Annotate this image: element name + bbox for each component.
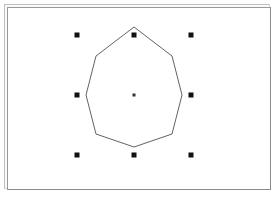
drawing-application-window <box>0 0 278 199</box>
handle-top-right[interactable] <box>189 33 194 38</box>
handle-bottom-center[interactable] <box>132 153 137 158</box>
handle-bottom-right[interactable] <box>189 153 194 158</box>
octagon-shape[interactable] <box>86 27 182 147</box>
handle-bottom-left[interactable] <box>75 153 80 158</box>
handle-top-left[interactable] <box>75 33 80 38</box>
drawing-canvas[interactable] <box>8 8 270 189</box>
handle-middle-left[interactable] <box>75 93 80 98</box>
handle-top-center[interactable] <box>132 33 137 38</box>
canvas-vector-layer <box>8 8 270 189</box>
handle-middle-right[interactable] <box>189 93 194 98</box>
handle-rotation-center[interactable] <box>133 94 136 97</box>
